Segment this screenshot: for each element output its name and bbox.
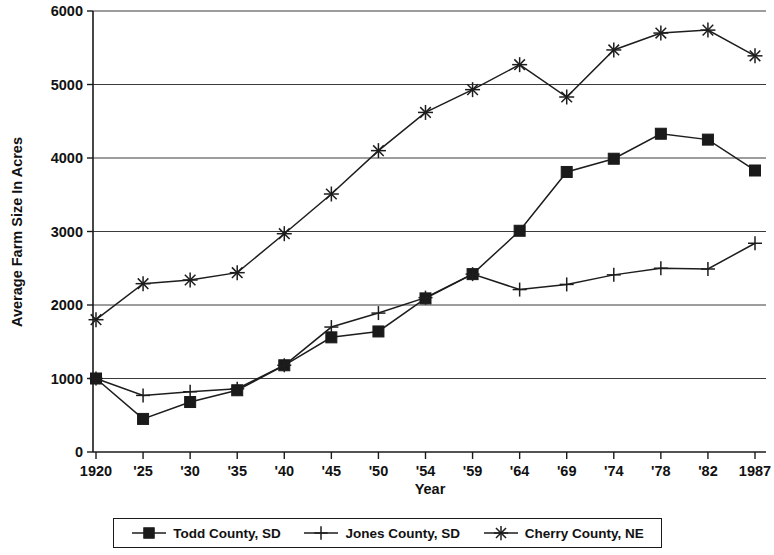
- marker-filled-square: [138, 413, 149, 424]
- x-tick-label: '74: [604, 463, 624, 479]
- legend-marker-plus-icon: [303, 525, 339, 541]
- legend-label: Todd County, SD: [173, 526, 280, 541]
- x-tick-label: '82: [698, 463, 718, 479]
- y-axis-title: Average Farm Size In Acres: [9, 137, 25, 327]
- y-tick-label: 5000: [51, 77, 83, 93]
- grid-lines: [93, 11, 766, 379]
- chart-legend: Todd County, SDJones County, SDCherry Co…: [113, 518, 662, 548]
- line-chart-plot: 0100020003000400050006000 1920'25'30'35'…: [0, 0, 774, 510]
- x-axis-title: Year: [415, 481, 446, 497]
- y-tick-label: 2000: [51, 297, 83, 313]
- x-tick-label: '64: [510, 463, 530, 479]
- y-tick-label: 6000: [51, 3, 83, 19]
- x-tick-label: 1920: [80, 463, 112, 479]
- x-tick-label: '59: [463, 463, 483, 479]
- y-tick-label: 4000: [51, 150, 83, 166]
- marker-filled-square: [702, 134, 713, 145]
- series-jones-county-sd: [89, 236, 762, 402]
- chart-figure: 0100020003000400050006000 1920'25'30'35'…: [0, 0, 774, 555]
- legend-entry[interactable]: Jones County, SD: [303, 525, 460, 541]
- x-tick-label: '45: [322, 463, 342, 479]
- marker-filled-square: [750, 165, 761, 176]
- x-tick-label: 1987: [739, 463, 771, 479]
- y-tick-label: 1000: [51, 371, 83, 387]
- series-cherry-county-ne: [89, 23, 763, 328]
- x-tick-label: '69: [557, 463, 577, 479]
- y-tick-label: 0: [75, 444, 83, 460]
- x-tick-label: '40: [274, 463, 294, 479]
- x-tick-label: '25: [133, 463, 153, 479]
- marker-filled-square: [655, 128, 666, 139]
- x-tick-label: '78: [651, 463, 671, 479]
- legend-marker-filled-square-icon: [131, 525, 167, 541]
- legend-label: Jones County, SD: [345, 526, 460, 541]
- marker-filled-square: [561, 166, 572, 177]
- x-tick-label: '50: [369, 463, 389, 479]
- legend-marker-asterisk-icon: [483, 525, 519, 541]
- marker-filled-square: [608, 153, 619, 164]
- y-tick-label: 3000: [51, 224, 83, 240]
- data-series-group: [89, 23, 763, 425]
- x-tick-label: '35: [227, 463, 247, 479]
- x-axis: 1920'25'30'35'40'45'50'54'59'64'69'74'78…: [80, 452, 771, 479]
- y-axis: 0100020003000400050006000: [51, 3, 93, 460]
- legend-entry[interactable]: Cherry County, NE: [483, 525, 644, 541]
- series-line: [96, 243, 755, 395]
- marker-filled-square: [373, 326, 384, 337]
- series-todd-county-sd: [91, 128, 761, 424]
- marker-filled-square: [144, 528, 154, 538]
- x-tick-label: '54: [416, 463, 436, 479]
- x-tick-label: '30: [180, 463, 200, 479]
- marker-filled-square: [514, 225, 525, 236]
- legend-entry[interactable]: Todd County, SD: [131, 525, 280, 541]
- legend-label: Cherry County, NE: [525, 526, 644, 541]
